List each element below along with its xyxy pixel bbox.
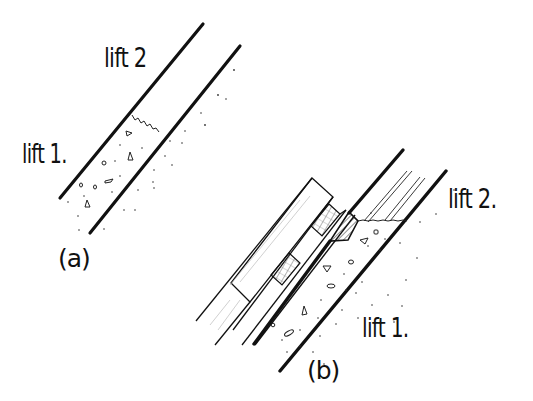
sand-dots-a <box>67 69 235 231</box>
timber-block-lower <box>271 253 300 285</box>
form-board-edge-1 <box>196 178 312 321</box>
form-board-edge-2 <box>215 302 250 345</box>
caption-a: (a) <box>58 246 90 271</box>
label-lift-1-a: lift 1. <box>22 140 67 167</box>
construction-joint-b <box>358 220 407 221</box>
stud-line-2 <box>242 210 346 345</box>
label-lift-2-a: lift 2 <box>104 44 146 71</box>
form-wall-right-a <box>90 46 240 233</box>
panel-b <box>196 150 455 371</box>
construction-joint-a <box>132 115 159 132</box>
lift2-lines <box>364 171 425 222</box>
construction-joint-diagram: lift 2 lift 1. (a) lift 2. lift 1. (b) <box>0 0 533 401</box>
caption-b: (b) <box>307 358 339 383</box>
wall-line-left-upper <box>349 150 403 213</box>
panel-a <box>60 24 240 233</box>
label-lift-2-b: lift 2. <box>448 185 496 212</box>
label-lift-1-b: lift 1. <box>362 314 408 341</box>
